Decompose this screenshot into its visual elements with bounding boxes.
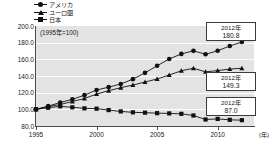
triangle-marker-icon [34,9,47,16]
data-point [191,113,195,117]
legend-label-eurozone: ユーロ圏 [49,9,73,16]
square-marker-icon [34,16,47,23]
legend-item-japan: 日本 [34,16,114,24]
x-tick-label: 2005 [150,131,164,139]
x-tick-mark [36,127,37,130]
data-point [167,57,172,62]
legend-label-japan: 日本 [49,16,61,23]
data-point [46,106,50,110]
data-point [167,111,171,115]
callout-america-year: 2012年 [209,24,253,32]
callout-eurozone-value: 149.3 [209,82,253,90]
data-point [215,48,220,53]
data-point [216,117,220,121]
data-point [179,52,184,57]
x-tick-label: 2010 [210,131,224,139]
x-tick-mark [157,127,158,130]
circle-marker-icon [34,1,47,8]
y-axis-ticks: 200.0180.0160.0140.0120.0100.080.0 [0,0,34,146]
y-tick-label: 160.0 [1,56,34,63]
data-point [143,111,147,115]
callout-japan: 2012年 87.0 [206,97,256,116]
y-tick-label: 100.0 [1,106,34,113]
callout-japan-year: 2012年 [209,99,253,107]
callout-japan-value: 87.0 [209,107,253,115]
data-point [228,118,232,122]
y-tick-label: 120.0 [1,89,34,96]
data-point [227,44,232,49]
callout-america-value: 180.8 [209,32,253,40]
callout-eurozone-year: 2012年 [209,74,253,82]
data-point [179,112,183,116]
data-point [131,110,135,114]
data-point [191,49,196,54]
data-point [70,105,74,109]
y-tick-label: 200.0 [1,23,34,30]
data-point [155,111,159,115]
x-tick-mark [218,127,219,130]
data-point [119,109,123,113]
legend-item-america: アメリカ [34,1,114,9]
data-point [58,104,62,108]
x-axis-ticks: 1995200020052010 [0,127,272,139]
y-tick-label: 140.0 [1,73,34,80]
callout-america: 2012年 180.8 [206,22,256,41]
data-point [155,63,160,68]
data-point [82,106,86,110]
data-point [191,66,196,71]
chart-legend: アメリカ ユーロ圏 日本 [34,1,114,24]
data-point [143,71,148,76]
chart-figure: アメリカ ユーロ圏 日本 (1995年=100) 200.0180.0160.0… [0,0,272,146]
legend-label-america: アメリカ [49,1,73,8]
x-tick-label: 1995 [29,131,43,139]
data-point [240,118,244,122]
data-point [203,117,207,121]
legend-item-eurozone: ユーロ圏 [34,9,114,17]
callout-eurozone: 2012年 149.3 [206,72,256,91]
x-axis-unit-label: (年) [259,131,269,139]
x-tick-mark [97,127,98,130]
data-point [203,52,208,57]
x-tick-label: 2000 [89,131,103,139]
data-point [94,107,98,111]
y-tick-label: 180.0 [1,39,34,46]
data-point [107,108,111,112]
data-point [131,77,136,82]
data-point [34,107,38,111]
